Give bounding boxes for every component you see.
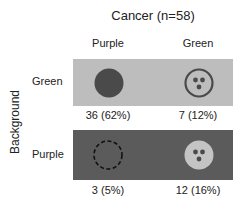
purple-background-panel bbox=[73, 130, 233, 180]
row-header-green: Green bbox=[32, 75, 63, 87]
count-green-bg-purple: 36 (62%) bbox=[73, 109, 143, 121]
count-purple-bg-purple: 3 (5%) bbox=[73, 184, 143, 196]
column-header-green: Green bbox=[163, 37, 233, 49]
count-purple-bg-green: 12 (16%) bbox=[163, 184, 233, 196]
ring-with-dots-icon bbox=[182, 66, 216, 100]
green-background-panel bbox=[73, 59, 233, 106]
y-axis-label: Background bbox=[8, 90, 22, 154]
figure-title: Cancer (n=58) bbox=[73, 8, 233, 23]
column-header-purple: Purple bbox=[73, 37, 143, 49]
light-circle-with-dots-icon bbox=[182, 138, 216, 172]
dashed-circle-icon bbox=[91, 138, 125, 172]
filled-circle-icon bbox=[92, 66, 126, 100]
count-green-bg-green: 7 (12%) bbox=[163, 109, 233, 121]
row-header-purple: Purple bbox=[32, 148, 64, 160]
